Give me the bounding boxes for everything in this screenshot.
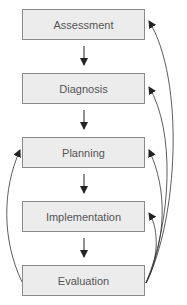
feedback-evaluation-implementation xyxy=(146,213,156,283)
step-implementation: Implementation xyxy=(22,201,145,232)
step-label: Planning xyxy=(62,147,105,159)
step-label: Assessment xyxy=(54,19,114,31)
step-label: Diagnosis xyxy=(59,83,107,95)
step-planning: Planning xyxy=(22,137,145,168)
step-assessment: Assessment xyxy=(22,9,145,40)
step-diagnosis: Diagnosis xyxy=(22,73,145,104)
step-label: Implementation xyxy=(46,211,121,223)
step-evaluation: Evaluation xyxy=(22,265,145,296)
feedback-evaluation-planning-left xyxy=(7,150,22,282)
step-label: Evaluation xyxy=(58,275,109,287)
